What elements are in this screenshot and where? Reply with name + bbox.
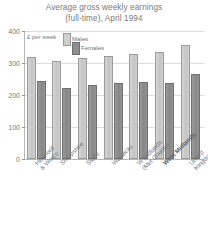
bar-group [104,32,127,159]
y-axis-tick-label: 400 [0,28,20,35]
plot-area [24,32,204,160]
bar-group [27,32,50,159]
bar-females [139,82,148,159]
y-axis-tick-mark [22,159,25,160]
legend-entry-females: Females [72,42,104,55]
y-axis-tick-mark [22,63,25,64]
legend-swatch-females [72,42,80,55]
legend-unit-label: £ per week [27,34,56,41]
y-axis-tick-mark [22,95,25,96]
bar-males [104,56,113,159]
y-axis-tick-label: 100 [0,124,20,131]
chart-container: Average gross weekly earnings (full-time… [0,0,208,225]
bar-group [129,32,152,159]
bar-females [88,85,97,159]
bar-females [191,74,200,159]
y-axis-tick-mark [22,127,25,128]
bar-females [37,81,46,159]
bar-males [27,57,36,159]
bar-males [129,54,138,159]
bar-males [52,61,61,159]
legend-label-females: Females [81,45,104,52]
bar-females [114,83,123,159]
y-axis-tick-label: 300 [0,60,20,67]
legend-swatch-males [63,33,71,46]
y-axis-tick-mark [22,31,25,32]
chart-title: Average gross weekly earnings (full-time… [0,3,208,24]
y-axis-tick-label: 200 [0,92,20,99]
y-axis-tick-label: 0 [0,156,20,163]
